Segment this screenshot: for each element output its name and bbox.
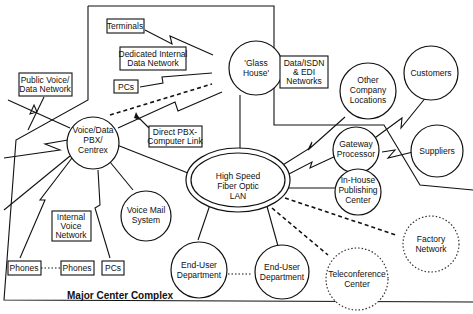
node-pbx: Voice/Data PBX/ Centrex [67,117,119,169]
node-voice-mail: Voice Mail System [121,191,171,241]
gateway-label-1: Gateway [339,139,373,149]
node-suppliers: Suppliers [411,125,463,177]
direct-link-label-2: Computer Link [147,136,203,146]
box-pcs-top: PCs [114,80,138,93]
node-glass-house: 'Glass House' [229,41,283,95]
node-end-user-2: End-User Department [255,245,309,299]
network-diagram: 'Glass House' Voice/Data PBX/ Centrex Hi… [0,0,473,314]
publishing-label-1: In-House [341,175,376,185]
pcs-top-label: PCs [118,82,134,92]
end-user-1-label-2: Department [177,270,222,280]
pbx-label-3: Centrex [78,145,109,155]
data-isdn-label-3: Networks [286,76,321,86]
box-phones-2: Phones [61,261,94,275]
publishing-label-2: Publishing [338,185,377,195]
terminals-label: Terminals [107,21,143,31]
lan-label-3: LAN [230,191,247,201]
pcs-bottom-label: PCs [105,263,121,273]
node-publishing: In-House Publishing Center [335,169,381,215]
box-phones-1: Phones [8,261,41,275]
internal-voice-label-3: Network [55,230,87,240]
suppliers-label: Suppliers [419,146,454,156]
box-dedicated: Dedicated Internal Data Network [119,47,188,70]
gateway-label-2: Processor [337,149,375,159]
dedicated-label-2: Data Network [127,58,179,68]
lan-label-2: Fiber Optic [217,181,259,191]
glass-house-label-2: House' [243,68,270,78]
pbx-label-2: PBX/ [83,135,103,145]
node-lan: High Speed Fiber Optic LAN [186,148,290,212]
box-direct-link: Direct PBX- Computer Link [147,126,203,147]
other-company-label-3: Locations [350,95,386,105]
publishing-label-3: Center [345,195,371,205]
box-data-isdn: Data/ISDN & EDI Networks [280,56,328,88]
end-user-1-label-1: End-User [181,260,217,270]
public-label-2: Data Network [19,84,71,94]
node-other-company: Other Company Locations [340,63,396,119]
other-company-label-1: Other [357,75,378,85]
box-pcs-bottom: PCs [102,261,124,275]
node-teleconference: Teleconference Center [326,248,388,310]
node-gateway: Gateway Processor [333,127,379,173]
box-internal-voice: Internal Voice Network [52,211,91,241]
box-terminals: Terminals [107,19,144,33]
other-company-label-2: Company [350,85,387,95]
factory-label-2: Network [415,244,447,254]
teleconference-label-2: Center [344,279,370,289]
node-end-user-1: End-User Department [171,242,227,298]
node-customers: Customers [404,46,458,100]
teleconference-label-1: Teleconference [328,269,386,279]
pbx-label-1: Voice/Data [72,125,113,135]
factory-label-1: Factory [417,234,446,244]
node-factory: Factory Network [403,216,459,272]
phones-2-label: Phones [63,263,92,273]
voice-mail-label-2: System [132,215,160,225]
lan-label-1: High Speed [216,171,261,181]
customers-label: Customers [410,68,451,78]
glass-house-label-1: 'Glass [244,58,267,68]
phones-1-label: Phones [10,263,39,273]
end-user-2-label-2: Department [260,272,305,282]
voice-mail-label-1: Voice Mail [127,205,166,215]
end-user-2-label-1: End-User [264,262,300,272]
complex-label: Major Center Complex [67,290,174,301]
box-public: Public Voice/ Data Network [19,73,72,96]
